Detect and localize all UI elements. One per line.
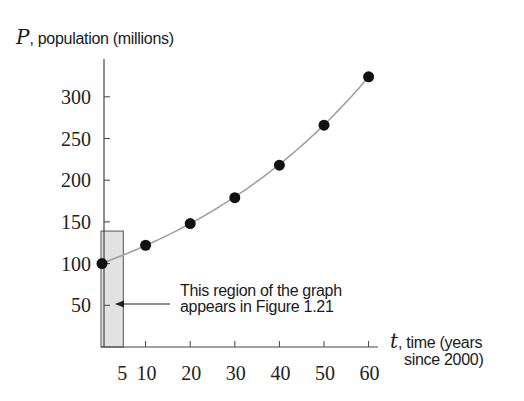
x-axis-label-line1: , time (years: [398, 334, 482, 351]
x-axis-variable: t: [390, 329, 398, 353]
y-tick-label: 100: [61, 253, 91, 275]
x-tick-label: 30: [226, 362, 246, 384]
data-point: [274, 160, 285, 171]
y-axis-variable: P: [16, 25, 29, 49]
data-point: [185, 218, 196, 229]
y-tick-label: 200: [61, 169, 91, 191]
x-tick-label: 10: [137, 362, 157, 384]
data-point: [140, 240, 151, 251]
x-tick-label: 60: [360, 362, 380, 384]
data-point: [229, 192, 240, 203]
annotation-line2: appears in Figure 1.21: [180, 299, 342, 315]
y-axis-label: P, population (millions): [16, 25, 174, 49]
y-tick-label: 50: [71, 294, 91, 316]
region-annotation: This region of the graph appears in Figu…: [180, 283, 342, 315]
data-point: [319, 120, 330, 131]
trend-curve: [101, 77, 369, 264]
y-axis-label-text: , population (millions): [29, 30, 173, 47]
data-point: [363, 71, 374, 82]
y-tick-label: 250: [61, 128, 91, 150]
y-tick-label: 150: [61, 211, 91, 233]
annotation-line1: This region of the graph: [180, 283, 342, 299]
x-axis-label-line2: since 2000): [390, 351, 483, 368]
x-tick-label: 50: [315, 362, 335, 384]
x-tick-label: 20: [181, 362, 201, 384]
x-axis-label: t, time (years since 2000): [390, 333, 483, 368]
y-tick-label: 300: [61, 86, 91, 108]
x-tick-label: 40: [270, 362, 290, 384]
data-point: [97, 258, 108, 269]
x-tick-label: 5: [117, 362, 127, 384]
